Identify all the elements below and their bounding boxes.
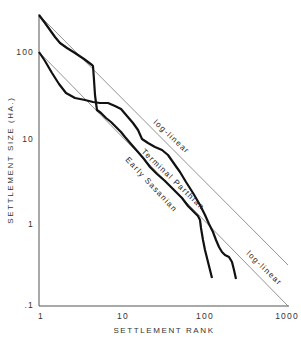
y-tick-0-1: .1 xyxy=(25,300,35,310)
x-tick-1000: 1000 xyxy=(275,311,299,321)
x-tick-100: 100 xyxy=(196,311,214,321)
y-axis-title: SETTLEMENT SIZE (HA.) xyxy=(6,96,15,223)
loglinear-line-upper xyxy=(39,15,288,265)
x-tick-1: 1 xyxy=(38,311,44,321)
rank-size-chart: 100 10 1 .1 1 10 100 1000 SETTLEMENT RAN… xyxy=(0,0,301,341)
y-tick-100: 100 xyxy=(16,47,34,57)
x-axis-title: SETTLEMENT RANK xyxy=(113,326,214,335)
loglinear-label-upper: log-linear xyxy=(152,118,192,156)
x-tick-10: 10 xyxy=(117,311,129,321)
y-tick-1: 1 xyxy=(28,219,34,229)
y-tick-10: 10 xyxy=(22,134,34,144)
